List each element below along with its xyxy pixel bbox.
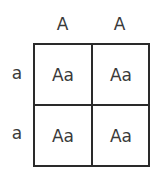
genotype-cell: Aa	[93, 45, 149, 104]
row-allele-label: a	[9, 62, 25, 84]
genotype-cell: Aa	[35, 45, 91, 104]
genotype-cell: Aa	[35, 106, 91, 165]
column-allele-label: A	[34, 13, 91, 35]
row-allele-label: a	[9, 122, 25, 144]
punnett-grid: Aa Aa Aa Aa	[33, 43, 150, 167]
genotype-cell: Aa	[93, 106, 149, 165]
column-allele-label: A	[91, 13, 148, 35]
